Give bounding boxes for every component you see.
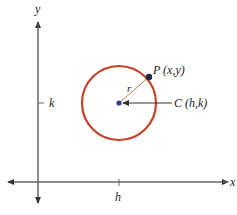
x-axis-label: x (229, 175, 236, 189)
y-tick-label-k: k (49, 96, 55, 110)
circle-diagram: y x k h r P (x,y) C (h,k) (0, 0, 237, 215)
radius-line (119, 77, 149, 103)
center-point (116, 100, 121, 105)
radius-label: r (127, 82, 132, 94)
center-label: C (h,k) (174, 96, 207, 110)
point-p (146, 74, 152, 80)
x-tick-label-h: h (115, 190, 121, 204)
y-axis-label: y (34, 2, 41, 16)
point-p-label: P (x,y) (152, 63, 185, 77)
